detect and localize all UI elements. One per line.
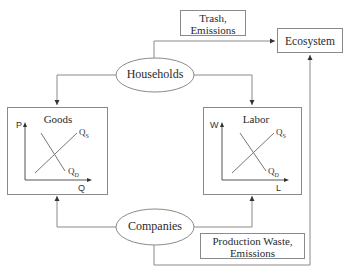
companies-label: Companies (116, 220, 194, 232)
households-to-ecosystem-arrow (154, 41, 275, 58)
production-line2: Emissions (201, 247, 304, 259)
companies-to-labor-arrow (194, 196, 252, 227)
companies-to-goods-arrow (57, 196, 116, 227)
goods-supply-label: QS (79, 127, 89, 139)
goods-title: Goods (38, 113, 78, 125)
trash-emissions-box: Trash, Emissions (180, 10, 246, 36)
trash-line1: Trash, (181, 12, 245, 24)
goods-y-axis-label: P (16, 120, 22, 130)
labor-supply-label: QS (276, 127, 286, 139)
labor-demand-label: QD (268, 166, 279, 178)
households-to-goods-arrow (57, 75, 116, 105)
households-label: Households (116, 68, 194, 80)
labor-x-axis-label: L (276, 183, 281, 193)
labor-title: Labor (236, 113, 276, 125)
goods-x-axis-label: Q (78, 183, 85, 193)
production-line1: Production Waste, (201, 235, 304, 247)
trash-line2: Emissions (181, 24, 245, 36)
households-to-labor-arrow (194, 75, 252, 105)
production-waste-box: Production Waste, Emissions (200, 233, 305, 259)
labor-y-axis-label: W (210, 120, 219, 130)
goods-demand-label: QD (68, 166, 79, 178)
ecosystem-label: Ecosystem (278, 35, 342, 47)
ecosystem-node: Ecosystem (277, 28, 343, 53)
